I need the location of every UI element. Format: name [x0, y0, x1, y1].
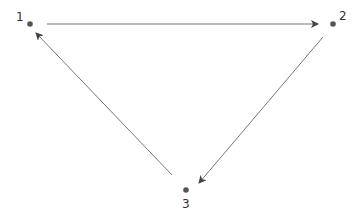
node-1-dot: [27, 21, 33, 27]
graph-canvas: [0, 0, 362, 221]
node-1-label: 1: [16, 11, 24, 23]
node-3-label: 3: [182, 198, 190, 210]
edge-2-to-3: [199, 37, 323, 183]
node-2-label: 2: [339, 10, 347, 22]
edge-3-to-1: [36, 33, 172, 175]
node-3-dot: [183, 187, 189, 193]
node-2-dot: [330, 21, 336, 27]
